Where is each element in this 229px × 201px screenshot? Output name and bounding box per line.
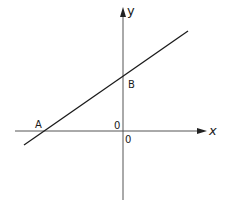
origin-label-below: 0 xyxy=(125,134,131,145)
y-axis-arrow-icon xyxy=(120,7,126,17)
point-b-label: B xyxy=(128,79,135,90)
y-axis-label: y xyxy=(127,3,135,18)
x-axis-label: x xyxy=(208,123,217,138)
y-axis: y xyxy=(120,3,135,200)
graph-line xyxy=(24,31,188,145)
point-a-label: A xyxy=(35,119,42,130)
graph-canvas: x y A B 0 0 xyxy=(0,0,229,201)
x-axis-arrow-icon xyxy=(197,128,207,134)
origin-label-left: 0 xyxy=(114,120,120,131)
